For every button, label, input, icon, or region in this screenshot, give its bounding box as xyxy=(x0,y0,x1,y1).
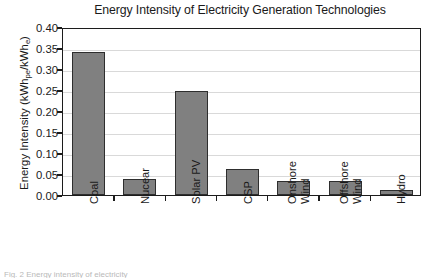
x-axis-label-slot: OffshoreWind xyxy=(321,202,367,276)
y-axis-tick-label: 0.15 xyxy=(24,128,58,139)
x-axis-label-slot: CSP xyxy=(219,202,265,276)
y-axis-tick-labels: 0.000.050.100.150.200.250.300.350.40 xyxy=(20,28,58,196)
x-axis-label-slot: Coal xyxy=(65,202,111,276)
x-axis-label-slot: OnshoreWind xyxy=(270,202,316,276)
x-axis-tick-label-line: Wind xyxy=(350,161,362,204)
y-axis-tick-label: 0.20 xyxy=(24,107,58,118)
bar xyxy=(72,52,105,195)
x-axis-tick-label-line: Offshore xyxy=(338,161,350,204)
plot-area xyxy=(62,28,421,196)
x-axis-tick-label: Solar PV xyxy=(190,160,202,204)
y-axis-label: Energy Intensity (kWhpe/kWhe) xyxy=(0,20,22,206)
bar-series xyxy=(63,29,420,195)
x-axis-tick-label-line: Hydro xyxy=(395,174,407,204)
x-axis-tick-label: Hydro xyxy=(395,174,407,204)
chart-figure: Energy Intensity of Electricity Generati… xyxy=(0,0,438,278)
y-axis-tick-label: 0.35 xyxy=(24,44,58,55)
x-axis-tick-labels: CoalNucearSolar PVCSPOnshoreWindOffshore… xyxy=(62,202,421,276)
x-axis-label-slot: Nucear xyxy=(116,202,162,276)
y-axis-tick-label: 0.40 xyxy=(24,23,58,34)
x-axis-tick-label: Coal xyxy=(88,181,100,204)
x-axis-tick-label-line: Coal xyxy=(88,181,100,204)
x-axis-tick-label: OnshoreWind xyxy=(286,161,311,204)
y-axis-tick-label: 0.30 xyxy=(24,65,58,76)
y-axis-tick-label: 0.10 xyxy=(24,149,58,160)
x-axis-tick-label-line: Solar PV xyxy=(190,160,202,204)
x-axis-tick-label: Nucear xyxy=(139,168,151,204)
x-axis-tick-label: CSP xyxy=(242,181,254,204)
x-axis-tick-mark xyxy=(216,196,217,201)
x-axis-tick-label-line: Wind xyxy=(299,161,311,204)
x-axis-tick-label-line: CSP xyxy=(242,181,254,204)
x-axis-label-slot: Hydro xyxy=(372,202,418,276)
x-axis-tick-mark xyxy=(267,196,268,201)
x-axis-tick-label-line: Nucear xyxy=(139,168,151,204)
y-axis-tick-label: 0.25 xyxy=(24,86,58,97)
x-axis-tick-label: OffshoreWind xyxy=(338,161,363,204)
x-axis-tick-mark xyxy=(318,196,319,201)
x-axis-tick-mark xyxy=(165,196,166,201)
x-axis-label-slot: Solar PV xyxy=(167,202,213,276)
y-axis-tick-label: 0.00 xyxy=(24,191,58,202)
x-axis-tick-mark xyxy=(370,196,371,201)
x-axis-tick-label-line: Onshore xyxy=(286,161,298,204)
caption-fragment: Fig. 2 Energy intensity of electricity xyxy=(4,270,128,278)
chart-title: Energy Intensity of Electricity Generati… xyxy=(46,3,434,18)
x-axis-tick-mark xyxy=(113,196,114,201)
y-axis-tick-label: 0.05 xyxy=(24,170,58,181)
